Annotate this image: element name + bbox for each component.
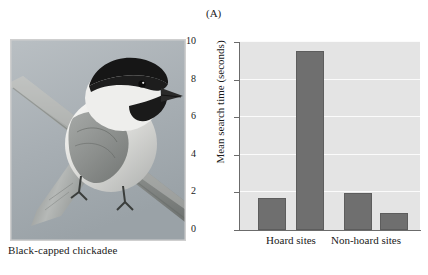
y-tick-label: 6 [156,110,196,121]
y-tick-label: 2 [156,185,196,196]
y-tick-label: 8 [156,73,196,84]
gridline [240,41,420,42]
y-tick-mark [234,230,240,231]
y-axis-line [239,42,240,231]
bar-4 [380,213,408,230]
bar-3 [344,193,372,230]
y-tick-mark [234,155,240,156]
chickadee-photo-graphic [11,40,185,240]
y-axis-label: Mean search time (seconds) [214,7,226,197]
y-tick-mark [234,42,240,43]
y-tick-mark [234,117,240,118]
bar-1 [258,198,286,230]
y-tick-label: 0 [156,223,196,234]
bar-2 [296,51,324,230]
figure-root: Black-capped chickadee (A) Mean search t… [0,0,428,275]
gridline [240,79,420,80]
y-tick-label: 10 [156,35,196,46]
plot-area [240,42,420,230]
y-tick-mark [234,192,240,193]
gridline [240,116,420,117]
x-tick-label-2: Non-hoard sites [306,234,426,246]
y-tick-mark [234,80,240,81]
x-axis-line [239,230,421,231]
gridline [240,154,420,155]
eye [138,80,145,87]
chickadee-photo [11,40,185,240]
y-tick-label: 4 [156,148,196,159]
photo-caption: Black-capped chickadee [8,244,198,257]
chart-panel: (A) Mean search time (seconds) 0246810 H… [200,0,428,275]
gridline [240,191,420,192]
